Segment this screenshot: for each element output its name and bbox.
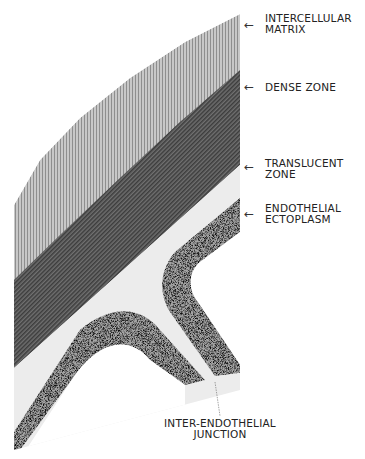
label-dense-zone: DENSE ZONE bbox=[265, 82, 336, 93]
label-intercellular-matrix: INTERCELLULAR MATRIX bbox=[265, 13, 352, 35]
label-inter-endothelial-junction: INTER-ENDOTHELIAL JUNCTION bbox=[155, 418, 285, 440]
arrow-left-icon: ← bbox=[244, 209, 254, 220]
arrow-left-icon: ← bbox=[244, 162, 254, 173]
arrow-left-icon: ← bbox=[244, 82, 254, 93]
capillary-wall-diagram bbox=[0, 0, 365, 459]
label-translucent-zone: TRANSLUCENT ZONE bbox=[265, 158, 343, 180]
label-endothelial-ectoplasm: ENDOTHELIAL ECTOPLASM bbox=[265, 203, 341, 225]
arrow-left-icon: ← bbox=[244, 20, 254, 31]
